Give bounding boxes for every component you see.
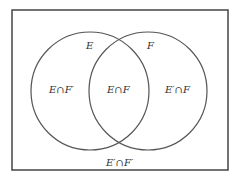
region-neither-label: E′∩F′ <box>105 157 134 168</box>
region-f-only-label: E′∩F <box>164 84 191 95</box>
region-e-only-label: E∩F′ <box>48 84 75 95</box>
venn-diagram: E F E∩F′ E∩F E′∩F E′∩F′ <box>0 0 238 182</box>
set-e-label: E <box>85 40 94 51</box>
region-both-label: E∩F <box>106 84 131 95</box>
set-f-label: F <box>146 40 155 51</box>
